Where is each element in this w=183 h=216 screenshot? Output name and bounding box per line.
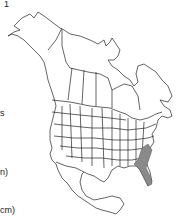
province-lines	[66, 62, 108, 78]
state-lines	[54, 136, 154, 140]
state-lines	[52, 112, 126, 120]
province-lines	[68, 68, 72, 100]
yukon-nwt-border	[62, 30, 66, 62]
state-lines	[70, 104, 72, 158]
province-lines	[82, 70, 84, 104]
alaska-canada-border	[48, 28, 62, 50]
us-mexico-border	[56, 162, 84, 172]
range-map	[0, 0, 183, 216]
province-lines	[112, 84, 140, 110]
state-lines	[80, 106, 82, 162]
species-range-shaded	[134, 144, 152, 186]
state-lines	[54, 124, 156, 130]
canada-us-border	[52, 100, 162, 120]
province-lines	[108, 78, 112, 108]
